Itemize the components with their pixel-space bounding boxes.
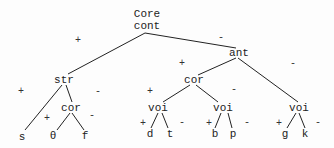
ant-minus-sign: - [290,59,296,69]
node-voi-3: voi [289,103,309,114]
node-ant: ant [229,48,249,59]
leaf-g: g [282,129,289,140]
cor-left-plus-sign: + [44,114,50,124]
feature-tree-diagram: Core cont + - str ant + - + - cor + - co… [0,0,334,148]
cor-left-minus-sign: - [89,111,95,121]
root-minus-sign: - [218,33,224,43]
cor-mid-minus-sign: - [231,85,237,95]
leaf-p: p [230,129,237,140]
tree-edges [0,0,334,148]
voi-2-minus-sign: - [244,118,250,128]
root-label-line1: Core [134,9,160,20]
str-plus-sign: + [18,87,24,97]
cor-mid-plus-sign: + [147,87,153,97]
leaf-b: b [212,129,219,140]
node-str: str [54,75,74,86]
leaf-k: k [302,129,309,140]
leaf-s: s [19,132,26,143]
voi-1-minus-sign: - [179,118,185,128]
voi-1-plus-sign: + [140,119,146,129]
str-minus-sign: - [95,87,101,97]
leaf-d: d [147,129,154,140]
leaf-theta: θ [50,131,57,142]
node-cor-left: cor [61,103,81,114]
node-cor-mid: cor [184,75,204,86]
voi-3-minus-sign: - [315,118,321,128]
leaf-f: f [82,131,89,142]
leaf-t: t [167,129,174,140]
node-voi-2: voi [213,103,233,114]
root-label-line2: cont [134,21,160,32]
root-plus-sign: + [75,36,81,46]
node-voi-1: voi [148,103,168,114]
ant-plus-sign: + [179,59,185,69]
